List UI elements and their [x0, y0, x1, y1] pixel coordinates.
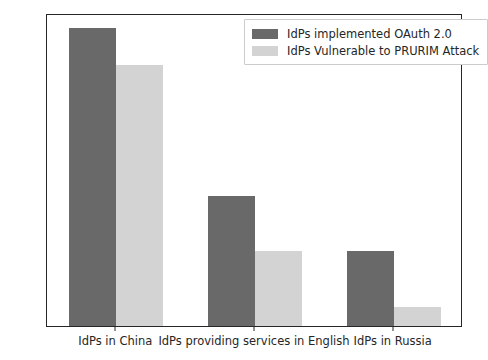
bar: [394, 307, 441, 326]
x-axis-tick-mark: [392, 327, 393, 331]
legend-color-swatch: [252, 46, 278, 56]
x-axis-tick-label: IdPs providing services in English: [158, 334, 349, 348]
bar: [255, 251, 302, 326]
bar: [116, 65, 163, 326]
bar: [347, 251, 394, 326]
plot-area: IdPs implemented OAuth 2.0IdPs Vulnerabl…: [46, 14, 462, 327]
legend-item: IdPs Vulnerable to PRURIM Attack: [252, 42, 479, 59]
chart-legend: IdPs implemented OAuth 2.0IdPs Vulnerabl…: [244, 19, 488, 65]
legend-color-swatch: [252, 29, 278, 39]
legend-label: IdPs implemented OAuth 2.0: [287, 27, 452, 41]
x-axis-tick-label: IdPs in China: [78, 334, 152, 348]
x-axis-tick-mark: [254, 327, 255, 331]
x-axis-tick-mark: [115, 327, 116, 331]
legend-item: IdPs implemented OAuth 2.0: [252, 25, 479, 42]
y-axis: 0246810121416: [0, 0, 46, 341]
legend-label: IdPs Vulnerable to PRURIM Attack: [287, 44, 479, 58]
bar: [208, 196, 255, 326]
bar: [69, 28, 116, 326]
x-axis-tick-label: IdPs in Russia: [354, 334, 432, 348]
